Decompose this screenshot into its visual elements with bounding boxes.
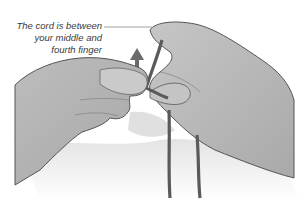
caption-line-1: The cord is between [2, 20, 102, 32]
caption-line-2: your middle and [2, 32, 102, 44]
caption: The cord is between your middle and four… [2, 20, 102, 56]
caption-line-3: fourth finger [2, 44, 102, 56]
